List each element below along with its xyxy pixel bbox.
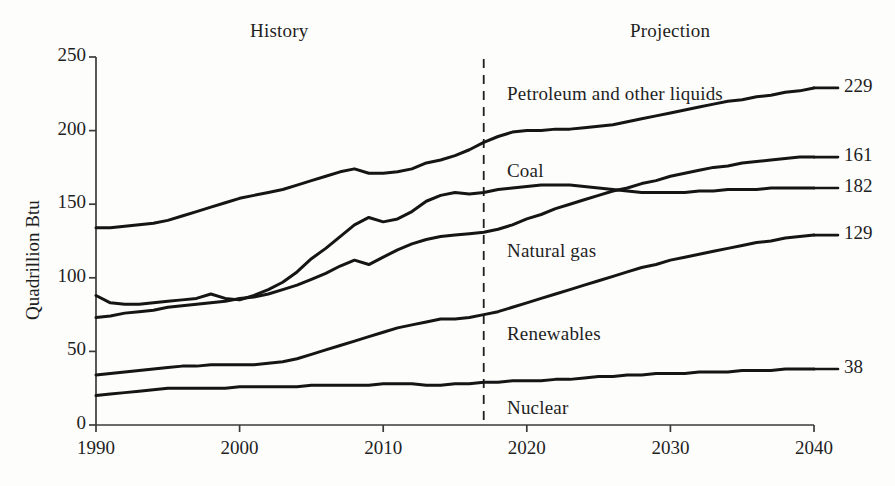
x-tick-label: 2030 <box>630 437 710 459</box>
y-tick-label: 200 <box>26 118 86 140</box>
series-label-natural-gas: Natural gas <box>507 240 596 262</box>
x-tick-label: 2000 <box>200 437 280 459</box>
series-label-renewables: Renewables <box>507 323 601 345</box>
history-region-label: History <box>250 20 308 42</box>
y-tick-label: 250 <box>26 44 86 66</box>
series-label-nuclear: Nuclear <box>507 397 569 419</box>
y-tick-label: 100 <box>26 265 86 287</box>
y-tick-label: 0 <box>26 412 86 434</box>
y-tick-label: 150 <box>26 191 86 213</box>
x-tick-label: 2020 <box>487 437 567 459</box>
chart-plot-area <box>0 0 895 486</box>
x-tick-label: 1990 <box>56 437 136 459</box>
end-value-coal: 182 <box>844 175 873 197</box>
energy-consumption-chart: Quadrillion Btu History Projection Petro… <box>0 0 895 486</box>
end-value-leaders <box>814 88 838 369</box>
series-lines <box>96 88 814 396</box>
end-value-renewables: 129 <box>844 222 873 244</box>
series-label-petroleum: Petroleum and other liquids <box>507 83 723 105</box>
end-value-natural-gas: 161 <box>844 144 873 166</box>
series-line-natural-gas <box>96 157 814 317</box>
end-value-nuclear: 38 <box>844 356 863 378</box>
x-tick-label: 2010 <box>343 437 423 459</box>
x-tick-label: 2040 <box>774 437 854 459</box>
end-value-petroleum: 229 <box>844 75 873 97</box>
projection-region-label: Projection <box>630 20 710 42</box>
series-line-petroleum-and-other-liquids <box>96 88 814 228</box>
y-tick-label: 50 <box>26 338 86 360</box>
series-line-coal <box>96 185 814 304</box>
series-line-nuclear <box>96 369 814 396</box>
axis-group <box>89 57 814 432</box>
series-label-coal: Coal <box>507 160 544 182</box>
y-axis-title: Quadrillion Btu <box>22 200 44 320</box>
